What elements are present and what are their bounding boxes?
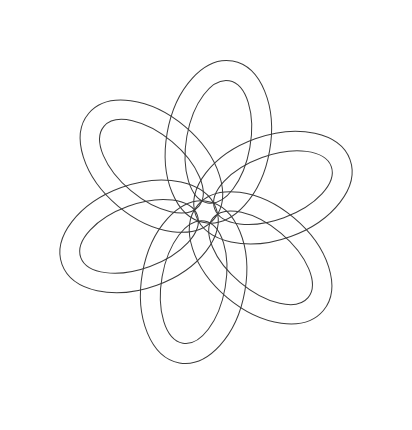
celtic-knot-artwork — [0, 0, 412, 430]
knot-loops — [44, 52, 368, 372]
knot-loop — [178, 111, 368, 265]
knot-loop — [55, 74, 247, 259]
knot-loop — [164, 165, 356, 350]
knot-loop — [44, 159, 234, 313]
